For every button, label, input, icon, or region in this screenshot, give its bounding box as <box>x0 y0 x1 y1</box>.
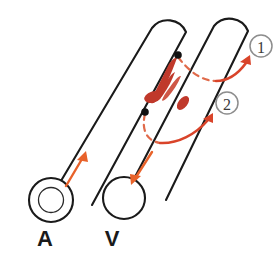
callout-1-label: 1 <box>257 39 265 56</box>
callout-2-label: 2 <box>223 96 231 113</box>
vessel-label-vein: V <box>105 226 120 251</box>
callout-1[interactable]: 1 <box>250 35 272 57</box>
diagram-canvas: 1 2 A V <box>0 0 280 258</box>
origin-dot-upper <box>174 51 182 59</box>
vein-end-circle <box>103 177 145 219</box>
route-1-arrow-head <box>240 55 251 65</box>
vessel-diagram-figure: 1 2 A V <box>0 0 280 258</box>
origin-dot-lower <box>141 108 149 116</box>
vessel-label-artery: A <box>37 226 53 251</box>
callout-2[interactable]: 2 <box>216 92 238 114</box>
